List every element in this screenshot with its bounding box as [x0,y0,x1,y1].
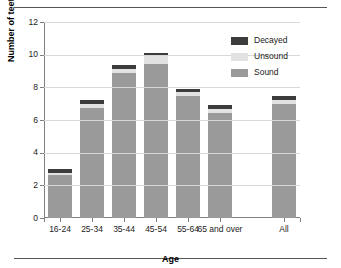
bar-16-24 [48,169,72,218]
y-axis-tick [40,55,44,56]
x-axis-tick [284,218,285,222]
y-axis-tick-label: 4 [14,148,38,157]
chart-page: Number of teeth 024681012 16-2425-3435-4… [0,0,341,268]
bar-segment-sound [176,96,200,218]
bar-segment-sound [48,175,72,218]
bar-45-54 [144,53,168,218]
legend-swatch-decayed [231,37,248,45]
y-axis-tick-label: 0 [14,214,38,223]
y-axis-tick-label: 8 [14,83,38,92]
legend-label-sound: Sound [254,68,279,77]
bar-segment-unsound [144,56,168,63]
y-axis-tick [40,185,44,186]
x-axis-boundary-tick [44,218,45,222]
x-axis-tick [60,218,61,222]
y-axis-tick-label: 6 [14,116,38,125]
legend-item-unsound: Unsound [231,50,331,63]
y-axis-tick [40,87,44,88]
x-axis-tick [92,218,93,222]
y-axis-tick [40,153,44,154]
y-axis-tick-label: 10 [14,50,38,59]
legend: Decayed Unsound Sound [231,34,331,82]
x-axis-tick [156,218,157,222]
bar-25-34 [80,100,104,218]
x-axis-tick-label: 65 and over [194,224,246,235]
gridline [44,153,300,154]
legend-item-decayed: Decayed [231,34,331,47]
top-divider-rule [14,7,327,8]
gridline [44,87,300,88]
y-axis-tick [40,120,44,121]
y-axis-tick-label: 12 [14,18,38,27]
bar-segment-sound [80,108,104,218]
legend-item-sound: Sound [231,66,331,79]
figure: Number of teeth 024681012 16-2425-3435-4… [0,12,341,252]
gridline [44,120,300,121]
bar-all [272,96,296,218]
bar-65-and-over [208,105,232,219]
x-axis-tick [124,218,125,222]
y-axis-tick [40,22,44,23]
legend-label-decayed: Decayed [254,36,288,45]
x-axis-title: Age [0,254,341,264]
x-axis-tick [220,218,221,222]
gridline [44,22,300,23]
x-axis-tick-label: All [258,224,310,235]
gridline [44,185,300,186]
bar-segment-sound [272,104,296,218]
x-axis-tick [188,218,189,222]
x-axis-boundary-tick [300,218,301,222]
bar-segment-sound [112,73,136,218]
legend-swatch-unsound [231,53,248,61]
bar-segment-sound [208,113,232,218]
legend-swatch-sound [231,69,248,77]
y-axis-tick-label: 2 [14,181,38,190]
legend-label-unsound: Unsound [254,52,288,61]
